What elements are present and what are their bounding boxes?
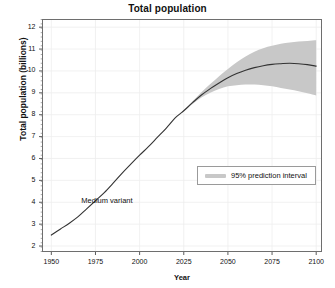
plot-canvas xyxy=(0,0,335,288)
legend-box: 95% prediction interval xyxy=(197,166,316,185)
x-tick-label: 2025 xyxy=(167,258,201,265)
x-tick-label: 1975 xyxy=(78,258,112,265)
y-tick-label: 4 xyxy=(14,198,36,205)
annotation-medium-variant: Medium variant xyxy=(81,196,132,205)
y-tick-label: 8 xyxy=(14,110,36,117)
x-tick-label: 1950 xyxy=(34,258,68,265)
y-tick-label: 7 xyxy=(14,132,36,139)
x-tick-label: 2050 xyxy=(211,258,245,265)
y-tick-label: 6 xyxy=(14,154,36,161)
x-tick-label: 2000 xyxy=(123,258,157,265)
y-tick-label: 12 xyxy=(14,23,36,30)
x-axis-label: Year xyxy=(42,273,322,282)
y-tick-label: 11 xyxy=(14,45,36,52)
chart-figure: Total population Total population (billi… xyxy=(0,0,335,288)
y-tick-label: 5 xyxy=(14,176,36,183)
y-tick-label: 9 xyxy=(14,88,36,95)
y-tick-label: 3 xyxy=(14,220,36,227)
prediction-interval-band xyxy=(180,40,316,113)
legend-swatch-prediction-interval xyxy=(205,174,226,178)
x-tick-label: 2100 xyxy=(299,258,333,265)
y-tick-label: 10 xyxy=(14,66,36,73)
y-tick-label: 2 xyxy=(14,242,36,249)
legend-label-prediction-interval: 95% prediction interval xyxy=(231,171,307,180)
x-tick-label: 2075 xyxy=(255,258,289,265)
